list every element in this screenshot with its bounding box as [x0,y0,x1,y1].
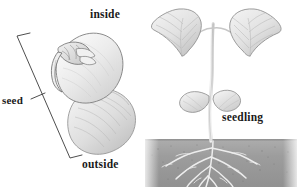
botanical-figure: inside outside seed seedling [0,0,301,187]
illustration-canvas [0,0,301,187]
label-inside: inside [90,8,120,20]
seedling-drawing [141,9,301,187]
seedling-stem [210,24,213,141]
seed-drawing [17,33,136,158]
label-seedling: seedling [222,111,263,123]
seedling-leaf-left [151,9,201,56]
label-seed: seed [2,94,23,106]
soil-band [141,139,301,187]
seedling-leaf-right [230,9,281,56]
label-outside: outside [82,158,119,170]
